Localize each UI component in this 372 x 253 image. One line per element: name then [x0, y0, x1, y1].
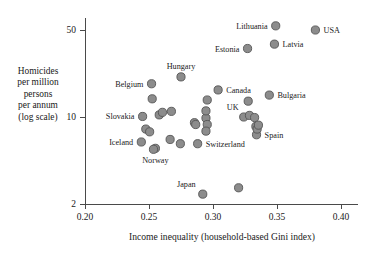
x-axis-title: Income inequality (household-based Gini …	[129, 231, 315, 243]
data-point	[167, 107, 175, 115]
data-point	[202, 107, 210, 115]
data-point	[146, 128, 154, 136]
x-tick-label-0.35: 0.35	[269, 212, 286, 222]
point-label-hungary: Hungary	[167, 62, 197, 71]
x-tick-label-0.30: 0.30	[205, 212, 222, 222]
data-point	[176, 140, 184, 148]
point-label-spain: Spain	[265, 131, 284, 140]
plot-canvas: 21050 0.200.250.300.350.40 LithuaniaUSAL…	[0, 0, 372, 253]
x-tick-label-0.25: 0.25	[141, 212, 158, 222]
data-point-belgium	[147, 80, 155, 88]
data-point-bulgaria	[265, 91, 273, 99]
data-point	[202, 127, 210, 135]
data-point	[235, 184, 243, 192]
point-label-canada: Canada	[226, 86, 251, 95]
point-label-switzerland: Switzerland	[206, 140, 245, 149]
y-tick-label-50: 50	[67, 25, 77, 35]
point-label-estonia: Estonia	[215, 45, 240, 54]
data-point	[158, 108, 166, 116]
data-point-japan	[199, 190, 207, 198]
point-label-iceland: Iceland	[109, 138, 133, 147]
data-point-canada	[214, 86, 222, 94]
data-point	[203, 96, 211, 104]
x-axis-ticks: 0.200.250.300.350.40	[77, 204, 350, 222]
data-point-usa	[311, 26, 319, 34]
point-label-norway: Norway	[142, 156, 169, 165]
y-tick-label-2: 2	[71, 199, 76, 209]
data-point-labels: LithuaniaUSALatviaEstoniaHungaryBelgiumC…	[106, 22, 340, 189]
point-label-usa: USA	[324, 26, 340, 35]
data-point-slovakia	[139, 112, 147, 120]
data-point-estonia	[243, 44, 251, 52]
data-point	[166, 135, 174, 143]
scatter-plot-figure: Homicides per million persons per annum …	[0, 0, 372, 253]
y-axis-ticks: 21050	[67, 25, 86, 209]
data-point	[148, 95, 156, 103]
point-label-bulgaria: Bulgaria	[277, 91, 306, 100]
x-tick-label-0.20: 0.20	[77, 212, 94, 222]
data-point	[251, 113, 259, 121]
point-label-latvia: Latvia	[283, 40, 304, 49]
point-label-uk: UK	[227, 103, 239, 112]
y-tick-label-10: 10	[67, 112, 77, 122]
point-label-slovakia: Slovakia	[106, 112, 135, 121]
data-point-lithuania	[272, 22, 280, 30]
data-point-latvia	[270, 40, 278, 48]
data-point	[254, 121, 262, 129]
data-point	[192, 120, 200, 128]
point-label-japan: Japan	[177, 180, 196, 189]
data-point-switzerland	[194, 140, 202, 148]
point-label-belgium: Belgium	[115, 80, 144, 89]
data-point-hungary	[177, 73, 185, 81]
data-point-iceland	[137, 138, 145, 146]
x-tick-label-0.40: 0.40	[333, 212, 350, 222]
data-point	[149, 145, 157, 153]
point-label-lithuania: Lithuania	[236, 22, 268, 31]
data-point	[244, 97, 252, 105]
